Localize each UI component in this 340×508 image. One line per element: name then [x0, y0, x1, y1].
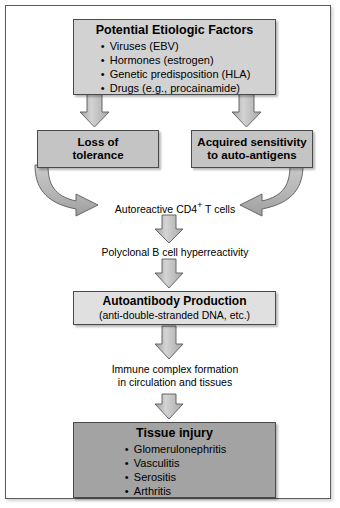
tolerance-line-2: tolerance: [72, 149, 123, 162]
immune-line-1: Immune complex formation: [6, 363, 340, 376]
arrow-autoreactive-to-polyclonal: [155, 215, 183, 243]
figure-frame: Potential Etiologic Factors Viruses (EBV…: [5, 5, 331, 499]
list-item: Genetic predisposition (HLA): [99, 68, 251, 82]
text-immune-complex-formation: Immune complex formation in circulation …: [6, 363, 340, 389]
tissue-injury-list: Glomerulonephritis Vasculitis Serositis …: [123, 443, 226, 498]
etiologic-list: Viruses (EBV) Hormones (estrogen) Geneti…: [99, 40, 251, 95]
acquired-line-1: Acquired sensitivity: [197, 136, 306, 149]
box-tissue-injury: Tissue injury Glomerulonephritis Vasculi…: [73, 422, 276, 498]
list-item: Serositis: [123, 471, 226, 485]
box-acquired-sensitivity: Acquired sensitivity to auto-antigens: [191, 130, 313, 168]
immune-line-2: in circulation and tissues: [6, 376, 340, 389]
arrow-immune-to-tissue: [155, 394, 183, 419]
list-item: Vasculitis: [123, 457, 226, 471]
box-potential-etiologic-factors: Potential Etiologic Factors Viruses (EBV…: [73, 19, 276, 95]
text-autoreactive-cd4-t-cells: Autoreactive CD4+ T cells: [6, 200, 340, 215]
list-item: Viruses (EBV): [99, 40, 251, 54]
list-item: Glomerulonephritis: [123, 443, 226, 457]
list-item: Arthritis: [123, 485, 226, 499]
autoreactive-text-before: Autoreactive CD4: [115, 203, 197, 215]
tissue-injury-title: Tissue injury: [136, 426, 213, 440]
tolerance-line-1: Loss of: [78, 136, 119, 149]
autoantibody-title: Autoantibody Production: [103, 295, 247, 309]
arrow-polyclonal-to-autoantibody: [155, 259, 183, 288]
box-autoantibody-production: Autoantibody Production (anti-double-str…: [73, 291, 276, 325]
text-polyclonal-b-cell-hyperreactivity: Polyclonal B cell hyperreactivity: [6, 246, 340, 259]
list-item: Hormones (estrogen): [99, 54, 251, 68]
arrow-autoantibody-to-immune: [155, 326, 183, 359]
etiologic-title: Potential Etiologic Factors: [96, 23, 254, 37]
autoreactive-text-after: T cells: [202, 203, 235, 215]
list-item: Drugs (e.g., procainamide): [99, 82, 251, 96]
acquired-line-2: to auto-antigens: [207, 149, 296, 162]
autoantibody-subtitle: (anti-double-stranded DNA, etc.): [99, 309, 250, 321]
box-loss-of-tolerance: Loss of tolerance: [37, 130, 159, 168]
